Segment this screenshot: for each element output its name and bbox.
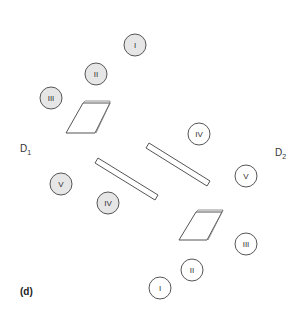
subunit-circle-V-left: V <box>50 173 72 195</box>
subunit-circle-IV-right: IV <box>188 123 210 145</box>
subunit-circle-I-bottom: I <box>149 277 171 299</box>
panel-label: (d) <box>20 286 33 297</box>
dimer-label-subscript: 2 <box>282 153 286 160</box>
subunit-label: I <box>159 284 161 293</box>
subunit-label: V <box>58 180 64 189</box>
subunit-circle-II-bottom: II <box>181 259 203 281</box>
plate-shape-top <box>66 101 110 133</box>
dimer-label-d1: D1 <box>20 143 31 156</box>
dimer-label-d2: D2 <box>275 147 286 160</box>
subunit-label: IV <box>195 130 203 139</box>
subunit-circle-II-top: II <box>85 63 107 85</box>
subunit-label: I <box>134 41 136 50</box>
subunit-label: IV <box>104 199 112 208</box>
subunit-label: II <box>94 70 98 79</box>
dimer-label-subscript: 1 <box>27 149 31 156</box>
subunit-label: II <box>190 266 194 275</box>
subunit-circle-III-right: III <box>235 233 257 255</box>
diagram-canvas: IIIIIIVIVIVVIIIIII <box>0 0 300 314</box>
circle-layer: IIIIIIVIVIVVIIIIII <box>40 34 257 299</box>
subunit-circle-III-top: III <box>40 87 62 109</box>
rod-right <box>146 143 210 186</box>
subunit-circle-I-top: I <box>124 34 146 56</box>
subunit-label: III <box>48 94 55 103</box>
plate-shape-bottom <box>179 210 223 240</box>
subunit-label: III <box>243 240 250 249</box>
subunit-label: V <box>243 172 249 181</box>
subunit-circle-IV-left: IV <box>97 192 119 214</box>
subunit-circle-V-right: V <box>235 165 257 187</box>
